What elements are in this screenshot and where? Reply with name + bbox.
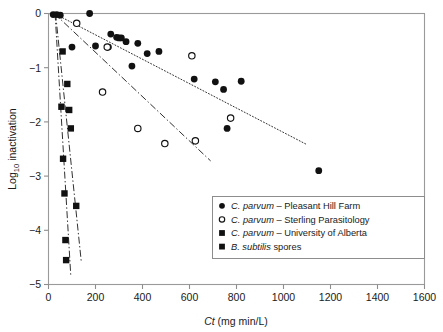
legend-item-0[interactable]: C. parvum – Pleasant Hill Farm	[219, 201, 360, 211]
point-filled-circle	[212, 78, 219, 85]
y-axis-title-base: Log	[6, 172, 18, 190]
x-tick-label-1400: 1400	[366, 291, 390, 303]
y-axis-ticks: 0−1−2−3−4−5	[29, 7, 48, 290]
point-filled-square	[62, 237, 68, 243]
y-tick-label-−4: −4	[29, 224, 41, 236]
legend-marker-filled-square	[219, 244, 225, 250]
legend-label-rest-1: – Sterling Parasitology	[274, 215, 370, 225]
x-tick-label-0: 0	[46, 291, 52, 303]
point-filled-square	[66, 107, 72, 113]
point-filled-circle	[220, 86, 227, 93]
point-open-circle	[192, 138, 198, 144]
legend: C. parvum – Pleasant Hill FarmC. parvum …	[213, 197, 425, 259]
svg-text:Log10 inactivation: Log10 inactivation	[6, 108, 21, 190]
point-filled-circle	[315, 167, 322, 174]
point-filled-circle	[191, 76, 198, 83]
series-0-points	[50, 10, 322, 174]
legend-label-rest-3: spores	[271, 242, 302, 252]
y-tick-label-−5: −5	[29, 278, 41, 290]
x-tick-label-1000: 1000	[272, 291, 296, 303]
legend-label-italic-0: C. parvum	[231, 201, 274, 211]
legend-label-italic-2: C. parvum	[231, 228, 274, 238]
legend-item-2[interactable]: C. parvum – University of Alberta	[219, 228, 368, 238]
point-open-circle	[104, 44, 110, 50]
legend-label-italic-1: C. parvum	[231, 215, 274, 225]
y-axis-title: Log10 inactivation	[6, 108, 21, 190]
point-filled-circle	[156, 48, 163, 55]
point-filled-circle	[86, 10, 93, 17]
point-open-circle	[189, 53, 195, 59]
x-tick-label-800: 800	[228, 291, 246, 303]
legend-label-italic-3: B. subtilis	[231, 242, 271, 252]
legend-label-2: C. parvum – University of Alberta	[231, 228, 368, 238]
point-filled-circle	[134, 40, 141, 47]
point-filled-circle	[238, 78, 245, 85]
legend-label-rest-0: – Pleasant Hill Farm	[274, 201, 361, 211]
x-axis-title: Ct (mg min/L)	[204, 315, 268, 327]
point-filled-square	[58, 104, 64, 110]
legend-marker-open-circle	[219, 217, 224, 222]
y-tick-label-0: 0	[35, 7, 41, 19]
legend-label-0: C. parvum – Pleasant Hill Farm	[231, 201, 360, 211]
point-open-circle	[227, 115, 233, 121]
x-axis-ticks: 02004006008001000120014001600	[46, 285, 437, 303]
point-filled-square	[59, 48, 65, 54]
point-open-circle	[74, 20, 80, 26]
legend-item-1[interactable]: C. parvum – Sterling Parasitology	[219, 215, 370, 225]
x-tick-label-1200: 1200	[319, 291, 343, 303]
x-tick-label-600: 600	[181, 291, 199, 303]
point-filled-circle	[224, 125, 231, 132]
x-tick-label-200: 200	[87, 291, 105, 303]
point-filled-square	[64, 81, 70, 87]
y-tick-label-−1: −1	[29, 62, 41, 74]
x-tick-label-1600: 1600	[413, 291, 437, 303]
point-filled-circle	[69, 44, 76, 51]
point-filled-square	[73, 203, 79, 209]
point-filled-square	[68, 125, 74, 131]
series-1-points	[74, 20, 234, 147]
point-filled-circle	[123, 38, 130, 45]
x-axis-title-rest: (mg min/L)	[215, 315, 268, 327]
point-filled-circle	[144, 50, 151, 57]
x-tick-label-400: 400	[134, 291, 152, 303]
point-open-circle	[99, 89, 105, 95]
point-filled-square	[63, 257, 69, 263]
legend-marker-filled-square	[219, 230, 225, 236]
y-axis-title-subscript: 10	[12, 164, 21, 172]
legend-label-1: C. parvum – Sterling Parasitology	[231, 215, 370, 225]
point-open-circle	[135, 125, 141, 131]
trend-sterling-parasitology	[54, 14, 210, 161]
svg-text:Ct (mg min/L): Ct (mg min/L)	[204, 315, 268, 327]
trend-pleasant-hill-farm	[54, 14, 307, 145]
figure-container: 02004006008001000120014001600 0−1−2−3−4−…	[0, 0, 443, 332]
legend-label-rest-2: – University of Alberta	[274, 228, 368, 238]
y-axis-title-rest: inactivation	[6, 108, 18, 164]
point-filled-circle	[92, 43, 99, 50]
legend-item-3[interactable]: B. subtilis spores	[219, 242, 302, 252]
point-filled-circle	[129, 63, 136, 70]
scatter-chart: 02004006008001000120014001600 0−1−2−3−4−…	[0, 0, 443, 332]
point-open-circle	[162, 140, 168, 146]
y-tick-label-−3: −3	[29, 170, 41, 182]
y-tick-label-−2: −2	[29, 116, 41, 128]
point-filled-circle	[107, 31, 114, 38]
legend-label-3: B. subtilis spores	[231, 242, 302, 252]
point-filled-square	[60, 156, 66, 162]
point-filled-circle	[57, 12, 64, 19]
point-filled-square	[61, 190, 67, 196]
legend-marker-filled-circle	[219, 203, 225, 209]
